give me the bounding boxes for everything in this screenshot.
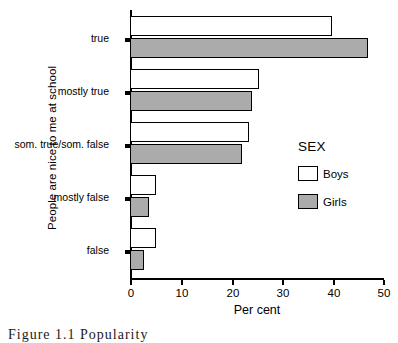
x-tick-30 [282,280,284,285]
x-tick-label-20: 20 [213,287,253,299]
legend-swatch-girls [298,194,318,209]
legend-item-boys: Boys [298,166,394,181]
legend-item-girls: Girls [298,194,394,209]
legend-label-boys: Boys [323,168,349,180]
category-row-false: false [130,226,383,278]
figure-caption: Figure 1.1 Popularity [8,327,148,343]
bar-mostly-true-boys [130,69,259,89]
legend: SEX Boys Girls [298,139,394,222]
x-tick-label-10: 10 [162,287,202,299]
bar-som-true-som-false-girls [130,144,242,164]
y-label-true: true [0,33,109,44]
legend-title: SEX [298,139,394,154]
bar-true-girls [130,38,368,58]
bar-true-boys [130,16,332,36]
x-tick-20 [232,280,234,285]
x-tick-label-30: 30 [263,287,303,299]
x-tick-40 [333,280,335,285]
bar-som-true-som-false-boys [130,122,249,142]
x-tick-label-0: 0 [111,287,151,299]
legend-swatch-boys [298,166,318,181]
bar-false-boys [130,228,156,248]
x-tick-10 [181,280,183,285]
y-label-mostly-true: mostly true [0,86,109,97]
x-axis-title: Per cent [130,303,384,317]
x-tick-0 [130,280,132,285]
category-row-true: true [130,14,383,66]
bar-false-girls [130,250,144,270]
bar-mostly-false-girls [130,197,149,217]
y-label-som-true-som-false: som. true/som. false [0,139,109,150]
legend-label-girls: Girls [323,196,347,208]
category-row-mostly-true: mostly true [130,67,383,119]
x-tick-label-40: 40 [314,287,354,299]
bar-mostly-false-boys [130,175,156,195]
y-label-mostly-false: mostly false [0,192,109,203]
bar-mostly-true-girls [130,91,252,111]
x-tick-label-50: 50 [364,287,398,299]
y-label-false: false [0,245,109,256]
x-tick-50 [383,280,385,285]
x-axis-line [130,278,384,280]
